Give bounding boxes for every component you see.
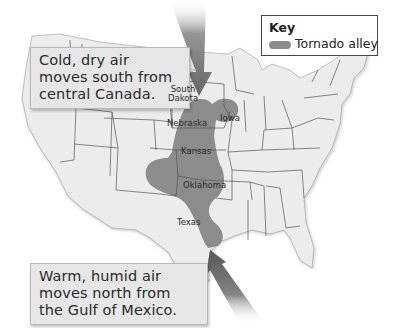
warm-callout-line: the Gulf of Mexico. bbox=[39, 302, 201, 319]
tornado-alley-swatch-icon bbox=[269, 41, 291, 49]
state-label-text: Kansas bbox=[181, 146, 211, 156]
key-title: Key bbox=[269, 20, 295, 35]
state-label-text: Oklahoma bbox=[183, 180, 226, 190]
state-label-text: Nebraska bbox=[167, 118, 207, 128]
state-label-south-dakota: South Dakota bbox=[168, 85, 198, 103]
warm-callout-line: Warm, humid air bbox=[39, 268, 201, 285]
cold-callout-line: central Canada. bbox=[39, 86, 183, 103]
state-label-text: Texas bbox=[177, 217, 201, 227]
warm-air-arrow bbox=[206, 250, 262, 324]
state-label-oklahoma: Oklahoma bbox=[183, 181, 226, 190]
state-label-nebraska: Nebraska bbox=[167, 119, 207, 128]
warm-callout-line: moves north from bbox=[39, 285, 201, 302]
state-label-kansas: Kansas bbox=[181, 147, 211, 156]
cold-callout-line: moves south from bbox=[39, 69, 183, 86]
state-label-text: Iowa bbox=[220, 113, 240, 123]
state-label-texas: Texas bbox=[177, 218, 201, 227]
state-label-iowa: Iowa bbox=[220, 114, 240, 123]
map-key: Key Tornado alley bbox=[261, 15, 378, 56]
key-item-label: Tornado alley bbox=[295, 36, 378, 51]
state-label-text: Dakota bbox=[168, 94, 198, 103]
warm-air-callout: Warm, humid air moves north from the Gul… bbox=[30, 263, 208, 325]
cold-air-callout: Cold, dry air moves south from central C… bbox=[30, 47, 190, 109]
cold-callout-line: Cold, dry air bbox=[39, 52, 183, 69]
